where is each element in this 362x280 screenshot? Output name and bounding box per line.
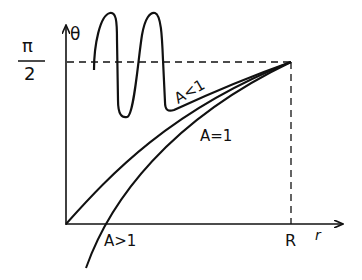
x-axis-label: r <box>315 227 322 243</box>
curve-a-less-1 <box>94 13 291 117</box>
curve-label-a-equal-1: A=1 <box>200 127 232 145</box>
curve-label-a-greater-1: A>1 <box>104 232 136 250</box>
x-tick-label: R <box>285 231 296 250</box>
y-tick-denominator: 2 <box>24 63 35 84</box>
y-axis-label: θ <box>70 24 80 44</box>
curve-a-equal-1 <box>66 62 291 224</box>
y-tick-numerator: π <box>22 35 33 56</box>
diagram: θ π 2 A<1 A=1 A>1 R r <box>0 0 362 280</box>
